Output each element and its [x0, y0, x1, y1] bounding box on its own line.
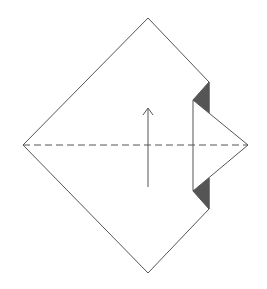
- diagram-canvas: [0, 0, 267, 289]
